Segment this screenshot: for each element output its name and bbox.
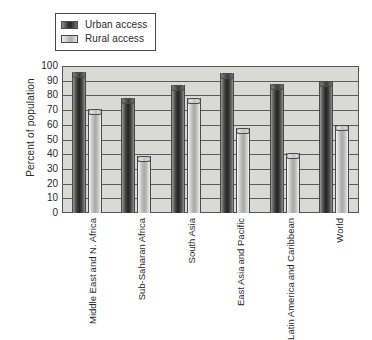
- x-axis-category-label-line: Sub-Saharan: [136, 242, 147, 300]
- legend-item-rural-access: Rural access: [61, 32, 147, 46]
- bar-body: [73, 75, 85, 213]
- bar-cap: [286, 153, 300, 159]
- bar-cap: [187, 98, 201, 104]
- x-axis-category-label-line: and Pacific: [235, 216, 246, 264]
- bar-urban: [72, 72, 86, 213]
- bar-group: [260, 66, 310, 213]
- bar-rural: [137, 156, 151, 213]
- bar-body: [188, 101, 200, 213]
- bar-body: [138, 159, 150, 213]
- bar-body: [122, 101, 134, 213]
- legend-item-urban-access: Urban access: [61, 18, 147, 32]
- bar-cap: [121, 98, 135, 104]
- y-axis-tick-label: 60: [47, 120, 58, 130]
- legend-swatch-urban-access: [61, 21, 78, 29]
- x-axis-category-label-line: Latin America: [285, 280, 296, 340]
- bar-group: [161, 66, 211, 213]
- y-axis-tick-label: 80: [47, 90, 58, 100]
- bar-rural: [236, 128, 250, 213]
- y-axis-tick-label: 90: [47, 76, 58, 86]
- bar-cap: [319, 81, 333, 87]
- x-axis-category-label: East Asiaand Pacific: [211, 216, 261, 302]
- bar-cap: [171, 85, 185, 91]
- y-axis-tick-label: 40: [47, 149, 58, 159]
- bar-body: [172, 88, 184, 213]
- bar-urban: [171, 85, 185, 213]
- x-axis-category-label: World: [310, 216, 360, 302]
- bar-body: [336, 128, 348, 213]
- y-axis-tick-label: 30: [47, 164, 58, 174]
- y-axis-title: Percent of population: [25, 53, 36, 203]
- bar-body: [89, 112, 101, 213]
- bar-urban: [121, 98, 135, 213]
- y-axis-tick-label: 20: [47, 179, 58, 189]
- y-axis-tick-label: 100: [41, 61, 58, 71]
- bar-urban: [220, 73, 234, 213]
- legend-label-rural-access: Rural access: [85, 33, 144, 45]
- x-axis-category-label-line: East Asia: [235, 264, 246, 306]
- bar-rural: [286, 153, 300, 213]
- legend-swatch-rural-access: [61, 35, 78, 43]
- x-axis-category-label: Sub-SaharanAfrica: [112, 216, 162, 302]
- bar-cap: [270, 84, 284, 90]
- y-axis-tick-label: 70: [47, 105, 58, 115]
- bar-group: [112, 66, 162, 213]
- bar-rural: [88, 109, 102, 213]
- y-axis-tick-label: 0: [52, 208, 58, 218]
- bar-cap: [220, 73, 234, 79]
- legend-label-urban-access: Urban access: [85, 19, 147, 31]
- bar-body: [320, 84, 332, 213]
- x-axis-category-label: South Asia: [161, 216, 211, 302]
- x-axis-category-label-line: Africa: [136, 216, 147, 242]
- bars-layer: [62, 66, 359, 213]
- chart-legend: Urban access Rural access: [55, 13, 156, 51]
- bar-cap: [137, 156, 151, 162]
- bar-body: [237, 131, 249, 213]
- bar-group: [310, 66, 360, 213]
- x-axis-category-label-line: and Caribbean: [285, 216, 296, 280]
- plot-area-wrapper: 0102030405060708090100: [62, 66, 359, 213]
- bar-cap: [236, 128, 250, 134]
- bar-body: [221, 76, 233, 213]
- x-axis-category-labels: Middle Eastand N. AfricaSub-SaharanAfric…: [62, 216, 359, 302]
- bar-body: [271, 87, 283, 213]
- x-axis-category-label: Middle Eastand N. Africa: [62, 216, 112, 302]
- bar-rural: [187, 98, 201, 213]
- x-axis-category-label-line: South Asia: [186, 216, 197, 263]
- x-axis-category-label-line: and N. Africa: [87, 216, 98, 272]
- bar-group: [211, 66, 261, 213]
- y-axis-tick-label: 10: [47, 193, 58, 203]
- bar-cap: [88, 109, 102, 115]
- x-axis-category-label-line: World: [334, 216, 345, 243]
- x-axis-category-label: Latin Americaand Caribbean: [260, 216, 310, 302]
- bar-urban: [270, 84, 284, 213]
- bar-urban: [319, 81, 333, 213]
- x-axis-category-label-line: Middle East: [87, 272, 98, 324]
- y-axis-tick-label: 50: [47, 135, 58, 145]
- bar-cap: [335, 125, 349, 131]
- bar-cap: [72, 72, 86, 78]
- bar-body: [287, 156, 299, 213]
- bar-group: [62, 66, 112, 213]
- bar-rural: [335, 125, 349, 213]
